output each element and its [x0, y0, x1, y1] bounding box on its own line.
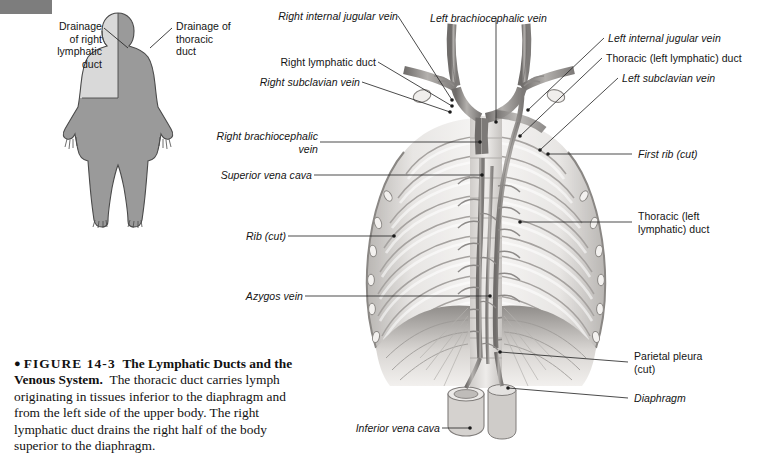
figure-14-3: Drainage of right lymphatic duct Drainag… [0, 0, 765, 475]
thorax-illustration [330, 18, 660, 458]
label-inferior-vena-cava: Inferior vena cava [330, 422, 440, 435]
label-rib-cut: Rib (cut) [216, 230, 286, 243]
label-right-brachiocephalic-vein: Right brachiocephalic vein [186, 130, 318, 155]
first-rib-cut-right [546, 88, 567, 105]
caption-spacer [103, 372, 110, 387]
label-left-brachiocephalic-vein: Left brachiocephalic vein [430, 12, 580, 25]
label-left-internal-jugular-vein: Left internal jugular vein [608, 32, 758, 45]
label-thoracic-duct-mid: Thoracic (left lymphatic) duct [638, 210, 750, 235]
inset-label-drainage-thoracic-duct: Drainage of thoracic duct [176, 20, 254, 58]
label-right-internal-jugular-vein: Right internal jugular vein [258, 10, 398, 23]
label-right-lymphatic-duct: Right lymphatic duct [250, 56, 376, 69]
label-parietal-pleura-cut: Parietal pleura (cut) [634, 350, 746, 375]
inset-label-drainage-right-lymphatic-duct: Drainage of right lymphatic duct [32, 20, 102, 70]
label-azygos-vein: Azygos vein [222, 290, 303, 303]
caption-bullet: ● [14, 357, 21, 369]
label-left-subclavian-vein: Left subclavian vein [622, 72, 752, 85]
figure-caption: ●FIGURE 14-3 The Lymphatic Ducts and the… [14, 355, 314, 454]
label-thoracic-duct-top: Thoracic (left lymphatic) duct [606, 52, 764, 65]
first-rib-cut-left [412, 88, 433, 105]
label-right-subclavian-vein: Right subclavian vein [240, 76, 360, 89]
corner-accent-bar [0, 0, 52, 14]
label-first-rib-cut: First rib (cut) [638, 148, 748, 161]
label-diaphragm: Diaphragm [634, 392, 734, 405]
caption-figure-number: FIGURE 14-3 [24, 356, 116, 371]
label-superior-vena-cava: Superior vena cava [196, 169, 312, 182]
